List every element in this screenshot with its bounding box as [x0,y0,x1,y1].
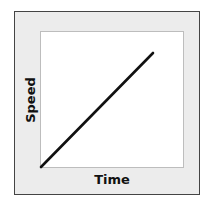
x-axis-label: Time [40,172,184,187]
y-axis-label: Speed [23,77,38,123]
